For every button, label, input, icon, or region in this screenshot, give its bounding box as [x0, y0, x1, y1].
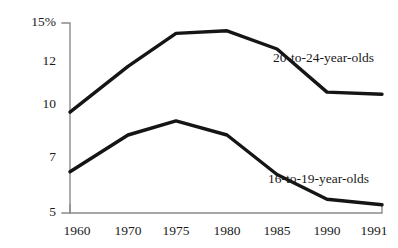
y-tick-label-12: 12	[43, 53, 57, 68]
x-tick-label-1970: 1970	[115, 223, 142, 238]
line-chart: 15% 12 10 7 5 1960 1970 1975 1980 1985 1…	[0, 0, 398, 248]
y-tick-label-10: 10	[43, 96, 57, 111]
x-tick-label-1990: 1990	[314, 223, 341, 238]
x-tick-label-1975: 1975	[163, 223, 190, 238]
y-tick-label-7: 7	[49, 149, 56, 164]
x-tick-label-1980: 1980	[214, 223, 241, 238]
chart-background	[0, 0, 398, 248]
x-tick-label-1985: 1985	[264, 223, 291, 238]
y-tick-label-15: 15%	[31, 14, 56, 29]
x-tick-label-1991: 1991	[361, 223, 388, 238]
x-tick-label-1960: 1960	[64, 223, 91, 238]
series-label-20-to-24: 20-to-24-year-olds	[273, 50, 374, 65]
y-tick-label-5: 5	[49, 204, 56, 219]
chart-container: 15% 12 10 7 5 1960 1970 1975 1980 1985 1…	[0, 0, 398, 248]
series-label-16-to-19: 16-to-19-year-olds	[268, 171, 369, 186]
